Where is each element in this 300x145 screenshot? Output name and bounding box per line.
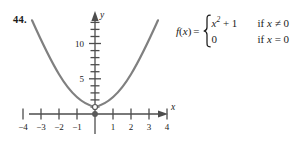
closed-point-marker bbox=[92, 111, 98, 117]
x-axis bbox=[29, 110, 168, 117]
case-condition: if x = 0 bbox=[258, 31, 290, 47]
case-expression: x2 + 1 bbox=[212, 14, 258, 31]
x-tick-labels: −4 −3 −2 −1 1 2 3 4 bbox=[18, 122, 170, 132]
x-tick-label: 1 bbox=[111, 122, 116, 132]
x-tick-label: 4 bbox=[165, 122, 170, 132]
x-tick-label: −4 bbox=[18, 122, 28, 132]
graph-panel: −4 −3 −2 −1 1 2 3 4 5 10 x y bbox=[18, 6, 178, 140]
x-tick-label: 2 bbox=[129, 122, 134, 132]
open-point-marker bbox=[93, 105, 98, 110]
x-tick-label: −3 bbox=[36, 122, 46, 132]
equals-sign: = bbox=[192, 25, 202, 37]
formula-panel: f(x) = x2 + 1 if x ≠ 0 0 if x = 0 bbox=[176, 7, 300, 55]
case-condition: if x ≠ 0 bbox=[258, 15, 289, 31]
x-axis-label: x bbox=[170, 102, 176, 112]
y-axis-label: y bbox=[99, 10, 105, 20]
left-curly-brace-icon bbox=[203, 14, 211, 48]
y-tick-label: 5 bbox=[80, 74, 85, 84]
x-tick-label: −1 bbox=[72, 122, 82, 132]
case-row: x2 + 1 if x ≠ 0 bbox=[212, 14, 290, 31]
x-tick-label: 3 bbox=[147, 122, 152, 132]
case-expression: 0 bbox=[212, 31, 258, 47]
piecewise-formula: f(x) = x2 + 1 if x ≠ 0 0 if x = 0 bbox=[176, 7, 300, 55]
function-notation: f(x) bbox=[176, 25, 192, 37]
case-row: 0 if x = 0 bbox=[212, 31, 290, 47]
y-tick-labels: 5 10 bbox=[75, 39, 85, 84]
y-tick-label: 10 bbox=[75, 39, 85, 49]
function-graph: −4 −3 −2 −1 1 2 3 4 5 10 x y bbox=[18, 6, 178, 140]
x-tick-label: −2 bbox=[54, 122, 64, 132]
cases-block: x2 + 1 if x ≠ 0 0 if x = 0 bbox=[212, 14, 290, 47]
